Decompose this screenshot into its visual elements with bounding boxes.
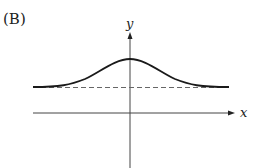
panel-label: (B) (3, 10, 26, 28)
x-axis-arrow-icon (228, 111, 235, 116)
graph: (B) y x (0, 0, 257, 168)
y-axis-arrow-icon (128, 32, 133, 39)
bell-curve (33, 59, 229, 87)
x-axis-label: x (240, 105, 248, 120)
y-axis-label: y (125, 16, 134, 31)
